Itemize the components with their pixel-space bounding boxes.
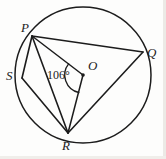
vertex-label-R: R: [62, 139, 70, 152]
bottom-edge-margin: [0, 156, 166, 159]
right-edge-margin: [163, 0, 166, 159]
vertex-label-Q: Q: [147, 46, 156, 59]
vertex-label-S: S: [6, 69, 13, 82]
vertex-label-P: P: [21, 21, 29, 34]
center-point-dot: [81, 73, 85, 77]
chord-SR: [22, 78, 68, 133]
central-angle-label: 106°: [47, 69, 70, 81]
geometry-figure: P Q R S O 106°: [0, 0, 166, 159]
vertex-label-O: O: [88, 59, 97, 72]
